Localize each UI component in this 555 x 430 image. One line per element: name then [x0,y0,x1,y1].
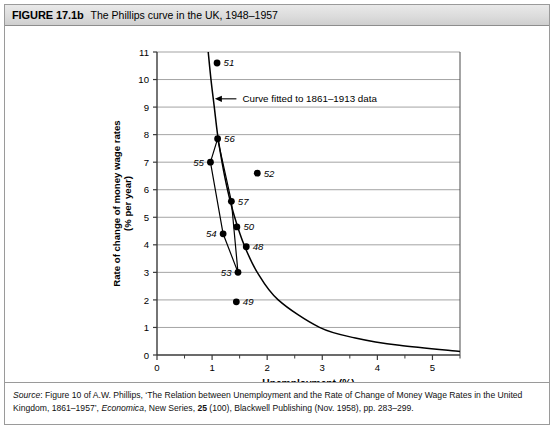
y-tick-label: 9 [144,102,149,113]
chart-plot-area: 01234567891011012345Unemployment (%)Rate… [5,27,549,382]
data-point[interactable] [214,135,221,142]
y-tick-label: 6 [144,184,149,195]
figure-container: FIGURE 17.1b The Phillips curve in the U… [4,4,550,425]
y-axis-title-line1: Rate of change of money wage rates [111,120,122,286]
figure-title: The Phillips curve in the UK, 1948–1957 [91,9,278,21]
data-point[interactable] [233,224,240,231]
data-point[interactable] [207,159,214,166]
data-point-label: 53 [221,267,232,278]
figure-header: FIGURE 17.1b The Phillips curve in the U… [5,5,549,26]
data-point[interactable] [228,198,235,205]
data-point-label: 55 [193,157,204,168]
x-tick-label: 1 [209,362,214,373]
data-point-label: 48 [253,241,264,252]
y-axis-ticks: 01234567891011 [138,47,157,361]
y-tick-label: 11 [139,47,149,58]
data-point[interactable] [235,269,242,276]
x-tick-label: 4 [375,362,381,373]
data-point[interactable] [243,243,250,250]
source-volume: 25 [197,403,207,413]
data-point-label: 54 [206,228,217,239]
y-tick-label: 10 [138,74,149,85]
y-tick-label: 7 [144,157,149,168]
figure-number: FIGURE 17.1b [12,9,84,21]
phillips-curve-chart: 01234567891011012345Unemployment (%)Rate… [5,27,549,382]
y-tick-label: 3 [144,267,149,278]
y-tick-label: 5 [144,212,149,223]
y-tick-label: 1 [144,322,149,333]
y-axis-title: Rate of change of money wage rates(% per… [111,120,133,286]
x-tick-label: 3 [320,362,325,373]
data-point-label: 56 [224,133,235,144]
data-point-label: 51 [224,57,235,68]
curve-annotation: Curve fitted to 1861–1913 data [215,93,378,104]
annotation-arrowhead [215,96,222,102]
data-point-label: 50 [243,221,254,232]
data-point[interactable] [233,298,240,305]
x-tick-label: 0 [154,362,159,373]
source-note: Source: Figure 10 of A.W. Phillips, ‘The… [13,389,541,416]
data-point[interactable] [254,170,261,177]
source-text-part2: , New Series, [144,403,198,413]
source-text-part3: (100), Blackwell Publishing (Nov. 1958),… [207,403,414,413]
source-divider [5,382,549,383]
y-tick-label: 2 [144,295,149,306]
annotation-text: Curve fitted to 1861–1913 data [242,93,377,104]
data-point[interactable] [214,60,221,67]
y-tick-label: 0 [144,350,149,361]
x-tick-label: 5 [430,362,435,373]
data-point-label: 57 [238,196,249,207]
year-connector-path [210,139,238,273]
x-axis-ticks: 012345 [154,355,460,373]
y-tick-label: 8 [144,129,149,140]
x-tick-label: 2 [265,362,270,373]
source-journal: Economica [101,403,144,413]
data-point-label: 52 [264,168,275,179]
y-axis-title-line2: (% per year) [122,176,133,231]
data-point[interactable] [220,230,227,237]
y-tick-label: 4 [144,239,150,250]
data-point-label: 49 [243,296,254,307]
source-label: Source [13,390,40,400]
